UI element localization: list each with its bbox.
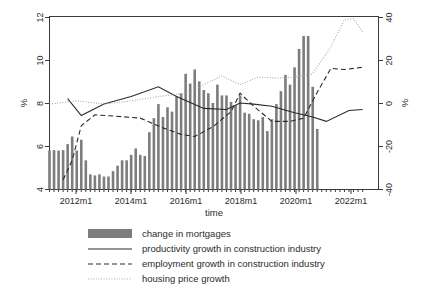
left-tick-label-12: 12: [35, 12, 45, 22]
right-axis-ticks: [379, 18, 384, 190]
chart-svg: 12 10 8 6 4 % 40 20 0 -20 -40 %: [0, 0, 428, 296]
bar: [75, 151, 78, 190]
legend-item-productivity-growth: productivity growth in construction indu…: [88, 243, 321, 254]
bar: [94, 175, 97, 189]
legend-label-housing-price-growth: housing price growth: [142, 273, 230, 284]
legend-item-change-in-mortgages: change in mortgages: [88, 228, 231, 239]
bar: [275, 104, 278, 189]
bar: [48, 151, 51, 190]
bar: [112, 171, 115, 189]
x-tick-label-2020m1: 2020m1: [280, 196, 313, 206]
right-axis-title: %: [399, 98, 410, 107]
bar: [239, 95, 242, 189]
bar: [212, 103, 215, 190]
x-tick-label-2012m1: 2012m1: [60, 196, 93, 206]
bar: [230, 102, 233, 190]
bar: [148, 132, 151, 189]
legend-label-productivity-growth: productivity growth in construction indu…: [142, 243, 321, 254]
right-axis: 40 20 0 -20 -40 %: [379, 12, 410, 196]
bar: [80, 140, 83, 190]
bar: [189, 84, 192, 190]
bar: [293, 67, 296, 189]
x-axis-labels: 2012m1 2014m1 2016m1 2018m1 2020m1 2022m…: [60, 196, 368, 206]
x-tick-label-2022m1: 2022m1: [335, 196, 368, 206]
legend-label-change-in-mortgages: change in mortgages: [142, 228, 231, 239]
bar: [311, 87, 314, 190]
bar: [307, 36, 310, 190]
left-tick-label-10: 10: [35, 55, 45, 65]
bar: [57, 151, 60, 190]
bar: [103, 177, 106, 190]
bar: [252, 119, 255, 189]
bar: [171, 112, 174, 190]
bar: [302, 36, 305, 190]
bar: [316, 129, 319, 190]
bar: [257, 120, 260, 189]
legend-swatch-bar-icon: [88, 229, 132, 238]
legend-item-employment-growth: employment growth in construction indust…: [88, 258, 325, 269]
bar: [261, 117, 264, 189]
bar: [89, 174, 92, 189]
bar: [184, 74, 187, 190]
right-tick-label-20: 20: [384, 55, 394, 65]
left-tick-label-8: 8: [35, 101, 45, 106]
bar: [248, 114, 251, 190]
left-tick-label-6: 6: [35, 144, 45, 149]
bar: [266, 131, 269, 189]
bar: [175, 97, 178, 190]
bar: [130, 155, 133, 190]
bar: [121, 160, 124, 189]
bar: [193, 69, 196, 189]
bar: [166, 107, 169, 189]
bar: [280, 91, 283, 189]
right-tick-label-0: 0: [384, 101, 394, 106]
bar: [53, 150, 56, 189]
line-housing-price-growth: [50, 19, 363, 104]
bar: [157, 104, 160, 189]
chart-legend: change in mortgages productivity growth …: [88, 228, 325, 284]
right-tick-label-minus20: -20: [384, 140, 394, 153]
legend-label-employment-growth: employment growth in construction indust…: [142, 258, 325, 269]
bar: [98, 174, 101, 189]
left-axis: 12 10 8 6 4 %: [18, 12, 50, 192]
x-axis-title: time: [205, 207, 223, 218]
bar: [216, 85, 219, 190]
bar: [139, 155, 142, 190]
bar: [180, 93, 183, 189]
bar: [207, 93, 210, 189]
bar: [125, 160, 128, 189]
bar-series-change-in-mortgages: [48, 36, 318, 190]
x-tick-label-2014m1: 2014m1: [115, 196, 148, 206]
bar: [202, 90, 205, 189]
bar: [198, 81, 201, 189]
bar: [153, 118, 156, 189]
right-tick-label-40: 40: [384, 12, 394, 22]
bar: [107, 177, 110, 190]
bar: [243, 113, 246, 190]
bar: [234, 105, 237, 189]
left-axis-title: %: [18, 98, 29, 107]
bar: [144, 156, 147, 190]
bar: [271, 119, 274, 189]
bar: [62, 150, 65, 189]
left-tick-label-4: 4: [35, 187, 45, 192]
x-tick-label-2016m1: 2016m1: [170, 196, 203, 206]
bar: [284, 75, 287, 190]
legend-item-housing-price-growth: housing price growth: [88, 273, 230, 284]
chart-figure: 12 10 8 6 4 % 40 20 0 -20 -40 %: [0, 0, 428, 296]
right-tick-label-minus40: -40: [384, 183, 394, 196]
bar: [85, 160, 88, 189]
bar: [134, 148, 137, 189]
x-tick-label-2018m1: 2018m1: [225, 196, 258, 206]
bar: [116, 166, 119, 190]
bar: [289, 85, 292, 190]
bar: [66, 144, 69, 189]
